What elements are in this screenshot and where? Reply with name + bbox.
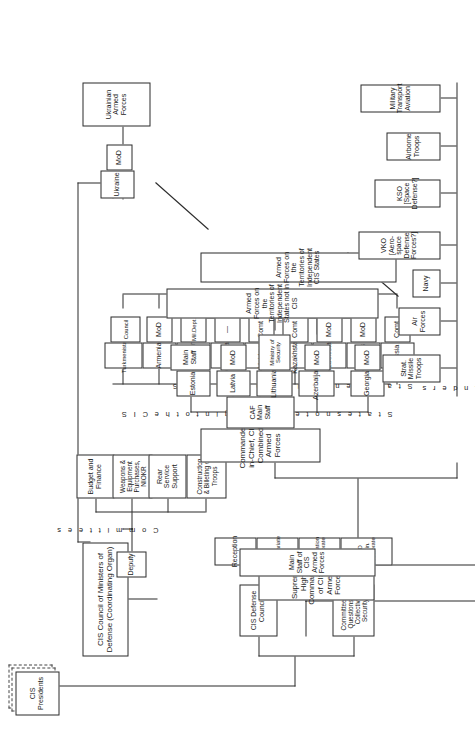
- organ-turkmenistan-label: Council: [122, 319, 128, 338]
- commander-navy-label: Navy: [422, 275, 430, 291]
- node-main-staff-cis-af[interactable]: Main Staff of CIS Armed Forces: [239, 548, 375, 576]
- caption-committees-council: C o m m i t t e e s: [54, 525, 158, 534]
- diagram-rotated-layer: CIS Presidents CIS Defense Council Commi…: [0, 0, 475, 748]
- node-main-staff-cis-af-label: Main Staff of CIS Armed Forces: [288, 551, 326, 573]
- commander-air-forces[interactable]: Air Forces: [398, 307, 440, 335]
- committee-budget-finance-label: Budget and Finance: [87, 457, 102, 495]
- state-georgia[interactable]: Georgia: [350, 370, 384, 396]
- node-cis-presidents-label: CIS Presidents: [29, 674, 44, 712]
- state-estonia-label: Estonia: [189, 371, 197, 394]
- state-azerbaijan[interactable]: Azerbaijan: [298, 370, 334, 396]
- committee-budget-finance[interactable]: Budget and Finance: [76, 454, 114, 498]
- state-lithuania-label: Lithuania: [270, 369, 278, 397]
- commander-airborne-troops[interactable]: Airborne Troops: [386, 132, 440, 160]
- node-cis-presidents[interactable]: CIS Presidents: [15, 671, 59, 715]
- organ-belarus-label: MoD: [359, 322, 367, 337]
- node-af-non-cis-territories[interactable]: Armed Forces on the Territories of Indep…: [166, 288, 378, 318]
- committee-construction-billeting-label: Construction & Billeting of Troops: [195, 457, 216, 495]
- commander-military-transport-aviation-label: Military Transport Aviation: [389, 83, 412, 113]
- commander-vko[interactable]: VKO [Aero-space Defense Forces?]: [358, 231, 440, 259]
- state-azerbaijan-label: Azerbaijan: [312, 366, 320, 399]
- organ-lithuania-label: Ministry of Security: [268, 337, 281, 367]
- state-lithuania[interactable]: Lithuania: [256, 370, 292, 396]
- node-caf-main-staff-label: CAF Main Staff: [249, 399, 272, 425]
- committee-weapons-equipment[interactable]: Weapons & Equipment Purchases, NIOKR: [112, 454, 152, 498]
- caption-committees-council-text: C o m m i t t e e s: [54, 525, 158, 534]
- organ-uzbekistan[interactable]: MoD: [316, 316, 342, 342]
- organ-turkmenistan[interactable]: Council: [110, 316, 140, 342]
- organ-armenia-label: MoD: [155, 322, 163, 337]
- commander-navy[interactable]: Navy: [412, 269, 440, 297]
- node-cis-council-ministers-defense-label: CIS Council of Ministers of Defense (Coo…: [96, 545, 113, 653]
- organ-kazakhstan-label: Comt: [291, 321, 299, 338]
- commander-kso[interactable]: KSO [Space Defense?]: [374, 179, 440, 207]
- caption-commanders-text: C o m m a n d e r s: [420, 383, 475, 392]
- node-cinc-caf[interactable]: Commander-in-Chief, CIS Combined Armed F…: [200, 428, 320, 462]
- state-latvia-label: Latvia: [229, 374, 237, 393]
- state-estonia[interactable]: Estonia: [176, 370, 210, 396]
- organ-lithuania[interactable]: Ministry of Security: [258, 334, 290, 370]
- organ-latvia-label: MoD: [229, 350, 237, 365]
- organ-estonia-label: Main Staff: [182, 347, 197, 367]
- state-turkmenistan-label: Turkmenistan: [120, 338, 126, 373]
- organ-azerbaijan-label: MoD: [313, 350, 321, 365]
- committee-rear-service-support[interactable]: Rear Service Support: [148, 454, 186, 498]
- organ-georgia-label: MoD: [363, 350, 371, 365]
- commander-air-forces-label: Air Forces: [411, 310, 426, 332]
- commander-military-transport-aviation[interactable]: Military Transport Aviation: [360, 84, 440, 112]
- organ-georgia[interactable]: MoD: [354, 344, 380, 370]
- state-turkmenistan[interactable]: Turkmenistan: [104, 342, 142, 368]
- node-caf-main-staff[interactable]: CAF Main Staff: [226, 396, 294, 428]
- state-armenia-label: Armenia: [155, 342, 163, 368]
- organ-kyrgyzstan-label: —: [223, 325, 231, 332]
- organ-tajikistan-label: Mil.Dept.: [190, 318, 196, 341]
- state-georgia-label: Georgia: [363, 371, 371, 396]
- node-deputy[interactable]: Deputy: [116, 551, 146, 577]
- commander-kso-label: KSO [Space Defense?]: [396, 177, 419, 209]
- commander-airborne-troops-label: Airborne Troops: [405, 133, 420, 159]
- organ-belarus[interactable]: MoD: [350, 316, 376, 342]
- state-latvia[interactable]: Latvia: [216, 370, 250, 396]
- node-af-non-cis-territories-label: Armed Forces on the Territories of Indep…: [245, 284, 299, 323]
- node-cinc-caf-label: Commander-in-Chief, CIS Combined Armed F…: [238, 422, 281, 468]
- state-ukraine-label: Ukraine: [113, 172, 121, 196]
- commander-strat-missile-troops[interactable]: Strat. Missile Troops: [382, 354, 440, 382]
- staff-reception-label: Reception: [231, 535, 239, 567]
- organ-kyrgyzstan[interactable]: —: [214, 316, 240, 342]
- organ-ukraine[interactable]: MoD: [106, 144, 132, 170]
- caption-commanders: C o m m a n d e r s: [420, 383, 475, 392]
- state-ukraine[interactable]: Ukraine: [100, 170, 134, 198]
- node-ukrainian-armed-forces-label: Ukrainian Armed Forces: [105, 85, 128, 123]
- organ-uzbekistan-label: MoD: [325, 322, 333, 337]
- node-af-cis-territories-label: Armed Forces on the Territories of Indep…: [275, 248, 321, 287]
- commander-vko-label: VKO [Aero-space Defense Forces?]: [380, 231, 418, 258]
- commander-strat-missile-troops-label: Strat. Missile Troops: [400, 357, 423, 379]
- node-ukrainian-armed-forces[interactable]: Ukrainian Armed Forces: [82, 82, 150, 126]
- organ-azerbaijan[interactable]: MoD: [304, 344, 330, 370]
- committee-rear-service-support-label: Rear Service Support: [156, 457, 179, 495]
- organ-latvia[interactable]: MoD: [220, 344, 246, 370]
- organ-armenia[interactable]: MoD: [146, 316, 172, 342]
- committee-weapons-equipment-label: Weapons & Equipment Purchases, NIOKR: [118, 457, 146, 495]
- diagram-canvas: CIS Presidents CIS Defense Council Commi…: [0, 0, 475, 748]
- organ-tajikistan[interactable]: Mil.Dept.: [180, 316, 206, 342]
- organ-estonia[interactable]: Main Staff: [170, 344, 210, 370]
- node-deputy-label: Deputy: [127, 553, 135, 575]
- organ-ukraine-label: MoD: [115, 150, 123, 165]
